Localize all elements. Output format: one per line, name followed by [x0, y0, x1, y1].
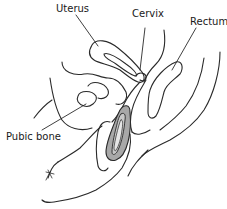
thumb — [58, 126, 102, 162]
label-pubic-bone: Pubic bone — [6, 131, 61, 143]
label-rectum: Rectum — [190, 16, 227, 28]
vaginal-wall-posterior — [131, 80, 147, 132]
fold-line — [88, 83, 108, 99]
anatomy-diagram: Uterus Cervix Rectum Pubic bone — [0, 0, 227, 209]
cervix-leader-line — [140, 28, 145, 70]
posterior-wall — [144, 30, 165, 82]
skin-crease — [34, 100, 52, 118]
perineum-line — [132, 130, 150, 134]
label-cervix: Cervix — [132, 8, 164, 20]
back-line — [142, 52, 220, 156]
pubic-bone-leader-line — [42, 104, 86, 130]
pubic-bone-shape — [77, 92, 96, 107]
uterus-leader-line — [76, 15, 98, 46]
rectum-leader-line — [172, 28, 196, 70]
rectum-outline — [148, 62, 182, 118]
anatomy-drawing — [0, 0, 227, 209]
label-uterus: Uterus — [56, 3, 89, 15]
